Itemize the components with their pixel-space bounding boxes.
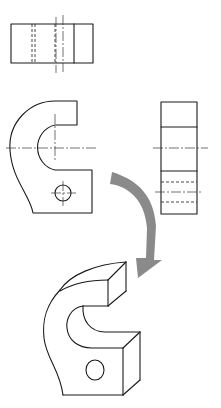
iso-edge [108, 291, 126, 306]
iso-edge [123, 380, 140, 395]
curved-arrow-icon [110, 172, 162, 278]
side-view-outline [161, 102, 197, 214]
top-view-outline [11, 24, 93, 63]
iso-edge [108, 262, 126, 280]
iso-inner-curve-back [83, 306, 140, 332]
side-view [153, 102, 208, 214]
front-view [6, 101, 98, 213]
iso-edge [123, 332, 140, 348]
top-view [11, 15, 93, 73]
projection-diagram [0, 0, 221, 408]
iso-hole [86, 360, 104, 380]
isometric-view [44, 262, 140, 395]
iso-inner-curve [67, 306, 123, 348]
iso-outer-curve [44, 290, 63, 395]
front-view-outline [10, 101, 92, 213]
